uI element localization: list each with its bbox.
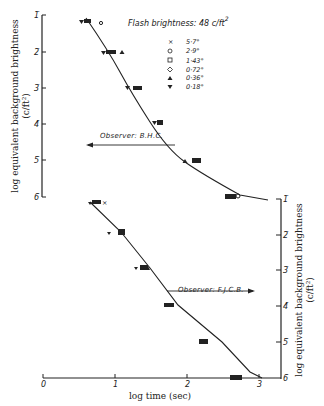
- top-y-tick-6: 6̄: [34, 193, 40, 202]
- x-axis-label: log time (sec): [129, 391, 191, 401]
- x-tick-2: 2: [185, 380, 190, 389]
- legend: ×5·7° 2·9° 1·43° 0·72° 0·36° 0·18°: [168, 38, 204, 91]
- svg-text:(c/ft²): (c/ft²): [21, 93, 31, 119]
- bottom-y-tick-1: 1̄: [283, 195, 289, 204]
- bottom-y-tick-4: 4̄: [283, 302, 289, 311]
- observer-top-label: Observer: B.H.C.: [100, 132, 163, 140]
- bottom-y-label: log equivalent background brightness (c/…: [294, 203, 315, 377]
- svg-text:0·36°: 0·36°: [186, 74, 204, 82]
- x-tick-3: 3: [257, 380, 262, 389]
- svg-text:log equivalent background brig: log equivalent background brightness: [294, 203, 304, 377]
- top-data-points: [79, 19, 163, 125]
- svg-text:0·18°: 0·18°: [186, 83, 204, 91]
- bottom-y-tick-5: 5̄: [283, 338, 289, 347]
- top-y-tick-4: 4̄: [34, 120, 40, 129]
- top-y-tick-1: 1̄: [34, 11, 40, 20]
- x-axis: 0 1 2 3 log time (sec): [41, 374, 281, 401]
- top-y-label: log equivalent background brightness (c/…: [10, 19, 31, 193]
- bottom-y-tick-3: 3̄: [283, 266, 289, 275]
- svg-text:×: ×: [102, 199, 107, 207]
- observer-bottom-label: Observer: F.J.C.B.: [178, 286, 244, 294]
- bottom-y-tick-6: 6̄: [283, 374, 289, 383]
- dark-adaptation-figure: 1̄ 2̄ 3̄ 4̄ 5̄ 6̄ log equivalent backgro…: [0, 0, 324, 406]
- svg-text:×: ×: [168, 38, 173, 46]
- bottom-y-tick-2: 2̄: [283, 231, 289, 240]
- svg-text:5·7°: 5·7°: [186, 38, 200, 46]
- svg-text:0·72°: 0·72°: [186, 66, 204, 74]
- flash-brightness-title: Flash brightness: 48 c/ft2: [128, 15, 229, 28]
- top-y-tick-2: 2̄: [34, 48, 40, 57]
- top-y-axis: 1̄ 2̄ 3̄ 4̄ 5̄ 6̄: [34, 11, 46, 202]
- top-fit-curve: [86, 18, 268, 200]
- svg-text:1·43°: 1·43°: [186, 57, 204, 65]
- observer-top-arrow: [86, 143, 175, 148]
- x-tick-1: 1: [113, 380, 118, 389]
- top-y-tick-5: 5̄: [34, 156, 40, 165]
- top-y-tick-3: 3̄: [34, 84, 40, 93]
- x-tick-0: 0: [41, 380, 46, 389]
- svg-text:2·9°: 2·9°: [186, 47, 200, 55]
- svg-text:(c/ft²): (c/ft²): [305, 277, 315, 303]
- svg-text:log equivalent background brig: log equivalent background brightness: [10, 19, 20, 193]
- bottom-y-axis: 1̄ 2̄ 3̄ 4̄ 5̄ 6̄: [276, 195, 289, 383]
